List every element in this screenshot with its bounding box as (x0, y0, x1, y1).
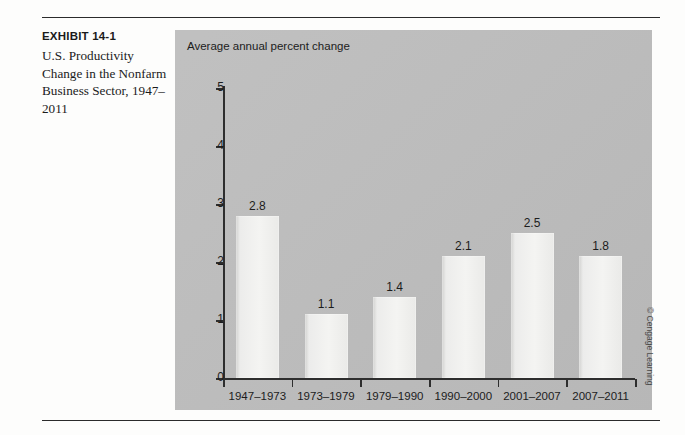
bottom-rule (42, 420, 660, 421)
top-rule (42, 17, 660, 18)
bar (305, 314, 348, 378)
y-tick-label: 4 (190, 138, 224, 152)
y-tick-label: 5 (190, 80, 224, 94)
x-category-label: 1947–1973 (223, 390, 292, 402)
x-category-label: 2007–2011 (566, 390, 635, 402)
copyright-credit: © Cengage Learning (645, 307, 655, 386)
x-tick-mark (360, 379, 362, 387)
x-tick-mark (498, 379, 500, 387)
y-tick-label: 0 (190, 370, 224, 384)
x-tick-mark (566, 379, 568, 387)
bar (579, 256, 622, 378)
x-category-label: 1979–1990 (360, 390, 429, 402)
bar (373, 297, 416, 378)
exhibit-caption-block: EXHIBIT 14-1 U.S. Productivity Change in… (42, 30, 167, 117)
y-tick-label: 1 (190, 312, 224, 326)
bar-value-label: 2.5 (507, 216, 557, 230)
x-tick-mark (429, 379, 431, 387)
x-tick-mark (635, 379, 637, 387)
bar (511, 233, 554, 378)
x-category-label: 2001–2007 (498, 390, 567, 402)
bar (236, 216, 279, 378)
bar-value-label: 2.1 (438, 239, 488, 253)
exhibit-title: U.S. Productivity Change in the Nonfarm … (42, 47, 167, 117)
x-category-label: 1990–2000 (429, 390, 498, 402)
bar-value-label: 1.1 (301, 297, 351, 311)
bar-value-label: 2.8 (232, 199, 282, 213)
chart-panel: Average annual percent change 012345 2.8… (175, 30, 652, 410)
bar-value-label: 1.8 (576, 239, 626, 253)
x-category-label: 1973–1979 (292, 390, 361, 402)
exhibit-label: EXHIBIT 14-1 (42, 30, 167, 42)
y-axis-line (223, 86, 225, 380)
y-tick-label: 3 (190, 196, 224, 210)
x-tick-mark (292, 379, 294, 387)
y-axis-title: Average annual percent change (187, 39, 350, 54)
bar (442, 256, 485, 378)
x-tick-mark (223, 379, 225, 387)
y-tick-label: 2 (190, 254, 224, 268)
bar-value-label: 1.4 (370, 280, 420, 294)
